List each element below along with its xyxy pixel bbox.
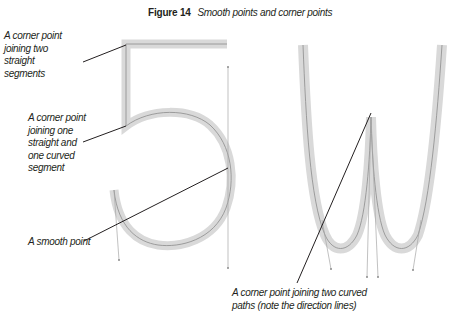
annotation-line: A corner point xyxy=(28,112,86,125)
path-line xyxy=(114,44,231,246)
annotation-corner-straight-curved: A corner point joining one straight and … xyxy=(28,112,86,175)
annotation-line: A corner point xyxy=(4,30,62,43)
direction-handle xyxy=(227,66,229,68)
annotation-line: segments xyxy=(4,68,62,81)
direction-handle xyxy=(366,276,368,278)
stroke-band xyxy=(114,44,231,246)
annotation-corner-straight-straight: A corner point joining two straight segm… xyxy=(4,30,62,80)
leader-line-corner-straight xyxy=(83,45,126,62)
annotation-line: paths (note the direction lines) xyxy=(232,300,367,313)
annotation-line: one curved xyxy=(28,150,86,163)
annotation-line: segment xyxy=(28,162,86,175)
annotation-line: joining two xyxy=(4,43,62,56)
annotation-line: A smooth point xyxy=(28,236,90,249)
direction-handle xyxy=(412,269,414,271)
direction-handle xyxy=(227,267,229,269)
annotation-smooth-point: A smooth point xyxy=(28,236,90,249)
direction-handle xyxy=(330,268,332,270)
direction-handle xyxy=(377,276,379,278)
annotation-line: straight and xyxy=(28,137,86,150)
annotation-line: A corner point joining two curved xyxy=(232,287,367,300)
glyph-w xyxy=(303,45,442,278)
annotation-line: joining one xyxy=(28,125,86,138)
annotation-line: straight xyxy=(4,55,62,68)
glyph-five xyxy=(114,44,231,269)
leader-line-corner-mixed xyxy=(83,126,126,142)
direction-handle xyxy=(118,259,120,261)
annotation-corner-curved-curved: A corner point joining two curved paths … xyxy=(232,287,367,312)
